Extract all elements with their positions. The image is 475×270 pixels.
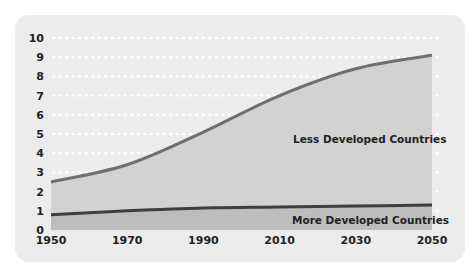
y-tick-label: 10 [29,32,45,45]
mdc-label: More Developed Countries [292,214,449,226]
y-tick-label: 9 [36,51,44,64]
x-axis-ticks: 195019701990201020302050 [36,234,448,247]
y-tick-label: 6 [36,109,44,122]
y-tick-label: 2 [36,186,44,199]
y-tick-label: 3 [36,166,44,179]
y-tick-label: 8 [36,70,44,83]
y-tick-label: 7 [36,90,44,103]
population-area-chart: 012345678910 195019701990201020302050 Le… [0,0,475,270]
y-tick-label: 5 [36,128,44,141]
y-tick-label: 4 [36,147,44,160]
x-tick-label: 1970 [112,234,143,247]
x-tick-label: 2030 [340,234,371,247]
y-axis-ticks: 012345678910 [29,32,45,237]
x-tick-label: 1950 [36,234,67,247]
x-tick-label: 2010 [264,234,295,247]
x-tick-label: 2050 [417,234,448,247]
ldc-label: Less Developed Countries [293,133,446,145]
x-tick-label: 1990 [188,234,219,247]
y-tick-label: 1 [36,205,44,218]
